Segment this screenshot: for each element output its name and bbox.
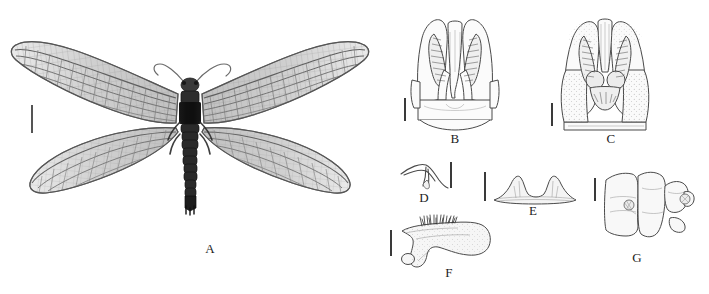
panel-b-drawing (400, 8, 510, 133)
panel-g-label: G (627, 251, 647, 264)
panel-e-label: E (523, 204, 543, 217)
panel-a-label: A (200, 242, 220, 255)
panel-a-scalebar (31, 105, 33, 133)
panel-b-label: B (445, 132, 465, 145)
panel-c-drawing (548, 8, 663, 133)
panel-c-scalebar (551, 103, 553, 126)
right-hindwing (180, 116, 375, 211)
panel-g-drawing (600, 168, 700, 250)
right-forewing (180, 31, 380, 141)
panel-a-specimen-image (0, 6, 380, 256)
left-hindwing (10, 116, 200, 211)
panel-f-label: F (439, 266, 459, 279)
figure-plate: B (0, 0, 709, 294)
panel-f-scalebar (390, 230, 392, 256)
panel-g-scalebar (594, 178, 596, 201)
panel-e-scalebar (484, 172, 486, 201)
panel-c-label: C (601, 132, 621, 145)
panel-b-scalebar (404, 98, 406, 121)
panel-d-scalebar (450, 162, 452, 188)
panel-d-label: D (414, 191, 434, 204)
left-forewing (0, 31, 200, 141)
